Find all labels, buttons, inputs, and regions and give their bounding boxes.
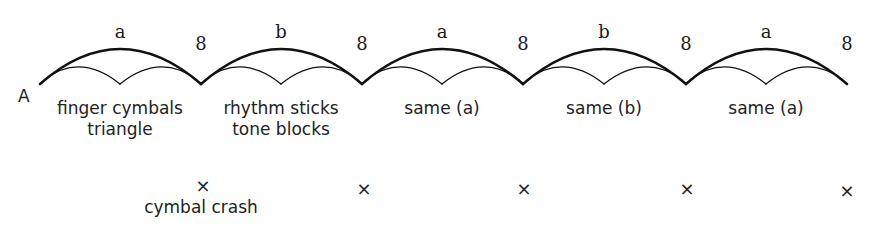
instrument-line: rhythm sticks	[223, 98, 338, 119]
phrase-length: 8	[841, 34, 852, 54]
accent-label: cymbal crash	[144, 197, 258, 218]
subphrase-arc	[205, 67, 281, 84]
phrase-arc-1	[40, 49, 201, 84]
subphrase-arc	[44, 67, 120, 84]
phrase-letter: b	[275, 22, 287, 42]
subphrase-arc	[120, 67, 197, 84]
phrase-arc-2	[201, 49, 362, 84]
cymbal-crash-mark-icon: ×	[195, 176, 210, 196]
phrase-letter: a	[761, 22, 772, 42]
subphrase-arc	[690, 67, 766, 84]
phrase-letter: a	[437, 22, 448, 42]
instrument-caption: same (a)	[404, 98, 479, 119]
instrument-line: same (b)	[566, 98, 642, 119]
form-diagram: A a b a b a 8 8 8 8 8 finger cymbals tri…	[0, 0, 873, 227]
phrase-arc-4	[523, 49, 686, 84]
cymbal-crash-mark-icon: ×	[679, 179, 694, 199]
subphrase-arc	[366, 67, 442, 84]
instrument-caption: same (b)	[566, 98, 642, 119]
phrase-length: 8	[195, 34, 206, 54]
cymbal-crash-mark-icon: ×	[516, 179, 531, 199]
cymbal-crash-mark-icon: ×	[356, 179, 371, 199]
instrument-line: tone blocks	[223, 119, 338, 140]
instrument-line: triangle	[57, 119, 183, 140]
instrument-caption: same (a)	[728, 98, 803, 119]
subphrase-arc	[604, 67, 682, 84]
subphrase-arc	[527, 67, 604, 84]
phrase-length: 8	[680, 34, 691, 54]
phrase-length: 8	[517, 34, 528, 54]
subphrase-arc	[766, 67, 843, 84]
cymbal-crash-mark-icon: ×	[839, 181, 854, 201]
instrument-caption: finger cymbals triangle	[57, 98, 183, 140]
phrase-arc-5	[686, 49, 847, 84]
instrument-line: same (a)	[728, 98, 803, 119]
instrument-line: finger cymbals	[57, 98, 183, 119]
phrase-arc-3	[362, 49, 523, 84]
phrase-letter: a	[115, 22, 126, 42]
subphrase-arc	[442, 67, 519, 84]
section-label: A	[18, 86, 30, 106]
subphrase-arc	[281, 67, 358, 84]
instrument-caption: rhythm sticks tone blocks	[223, 98, 338, 140]
instrument-line: same (a)	[404, 98, 479, 119]
phrase-length: 8	[356, 34, 367, 54]
phrase-letter: b	[598, 22, 610, 42]
